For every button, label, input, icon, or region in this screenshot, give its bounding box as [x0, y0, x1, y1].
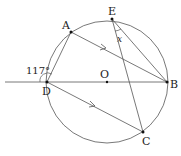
- label-b: B: [170, 78, 178, 91]
- segment-da: [47, 32, 71, 82]
- point-b: [166, 81, 169, 84]
- parallel-arrow-icon: [100, 44, 106, 50]
- angle-label-x: x: [117, 34, 122, 44]
- label-a: A: [61, 19, 71, 32]
- label-d: D: [42, 85, 51, 98]
- point-o: [106, 81, 108, 83]
- point-d: [46, 81, 49, 84]
- label-c: C: [142, 135, 150, 148]
- angle-label-117: 117°: [26, 65, 50, 76]
- diagram-canvas: A E B D C O 117° x: [0, 0, 181, 156]
- label-e: E: [108, 5, 116, 18]
- angle-arc-x: [115, 29, 121, 31]
- label-o: O: [100, 68, 109, 81]
- segment-dc: [47, 82, 143, 132]
- geometry-diagram: A E B D C O 117° x: [0, 0, 181, 156]
- point-c: [142, 131, 145, 134]
